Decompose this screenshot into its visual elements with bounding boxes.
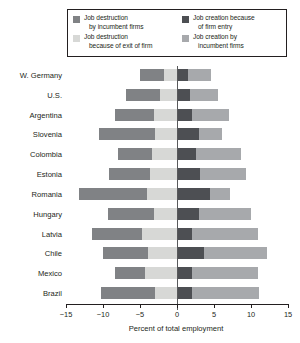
- legend-label-line2-0: by incumbent firms: [84, 23, 143, 32]
- x-tick-mark: [103, 304, 104, 308]
- legend-label-line1-1: Job creation because: [193, 14, 255, 21]
- legend-item-job-creation-incumbent: Job creation by incumbent firms: [177, 32, 286, 51]
- legend-label-line2-1: of firm entry: [193, 23, 255, 32]
- y-axis-label: Latvia: [0, 229, 62, 240]
- y-axis-label-wrap: Latvia: [0, 225, 300, 245]
- legend-label-line2-3: incumbent firms: [193, 42, 244, 51]
- y-axis-label: Brazil: [0, 288, 62, 299]
- x-tick-mark: [177, 304, 178, 308]
- legend-swatch-job-destruction-exit: [73, 35, 80, 42]
- y-axis-label: U.S.: [0, 90, 62, 101]
- x-tick-label: 5: [201, 310, 227, 319]
- x-tick-label: 0: [164, 310, 190, 319]
- legend-label-line1-0: Job destruction: [84, 14, 128, 21]
- y-axis-label-wrap: Hungary: [0, 205, 300, 225]
- x-tick-mark: [66, 304, 67, 308]
- x-tick-label: −10: [90, 310, 116, 319]
- x-tick-mark: [214, 304, 215, 308]
- y-axis-label-wrap: Romania: [0, 185, 300, 205]
- y-axis-label-wrap: Estonia: [0, 165, 300, 185]
- y-axis-label-wrap: U.S.: [0, 86, 300, 106]
- legend-swatch-job-destruction-incumbent: [73, 16, 80, 23]
- legend-item-job-destruction-exit: Job destruction because of exit of firm: [68, 32, 177, 51]
- legend-item-job-creation-entry: Job creation because of firm entry: [177, 13, 286, 32]
- legend-label-line1-3: Job creation by: [193, 33, 237, 40]
- x-tick-label: −5: [127, 310, 153, 319]
- chart-legend: Job destruction by incumbent firms Job c…: [67, 9, 287, 57]
- y-axis-label: Colombia: [0, 149, 62, 160]
- y-axis-label: Hungary: [0, 209, 62, 220]
- y-axis-label-wrap: W. Germany: [0, 66, 300, 86]
- y-axis-label-wrap: Slovenia: [0, 125, 300, 145]
- y-axis-label: Mexico: [0, 268, 62, 279]
- x-tick-mark: [288, 304, 289, 308]
- y-axis-label: W. Germany: [0, 70, 62, 81]
- y-axis-label: Romania: [0, 189, 62, 200]
- chart-root: Job destruction by incumbent firms Job c…: [0, 0, 300, 343]
- y-axis-label-wrap: Chile: [0, 244, 300, 264]
- x-tick-label: 15: [275, 310, 300, 319]
- legend-item-job-destruction-incumbent: Job destruction by incumbent firms: [68, 13, 177, 32]
- y-axis-label-wrap: Argentina: [0, 106, 300, 126]
- x-tick-mark: [140, 304, 141, 308]
- x-tick-mark: [251, 304, 252, 308]
- legend-swatch-job-creation-incumbent: [182, 35, 189, 42]
- x-axis-title-text: Percent of total employment: [77, 324, 224, 333]
- y-axis-label-wrap: Brazil: [0, 284, 300, 304]
- x-axis-title: Percent of total employment: [0, 324, 300, 333]
- y-axis-label: Chile: [0, 248, 62, 259]
- y-axis-label: Argentina: [0, 110, 62, 121]
- legend-label-line2-2: because of exit of firm: [84, 42, 152, 51]
- x-tick-label: 10: [238, 310, 264, 319]
- legend-swatch-job-creation-entry: [182, 16, 189, 23]
- x-tick-label: −15: [53, 310, 79, 319]
- legend-label-line1-2: Job destruction: [84, 33, 128, 40]
- y-axis-label-wrap: Colombia: [0, 145, 300, 165]
- y-axis-label: Estonia: [0, 169, 62, 180]
- y-axis-label: Slovenia: [0, 129, 62, 140]
- y-axis-label-wrap: Mexico: [0, 264, 300, 284]
